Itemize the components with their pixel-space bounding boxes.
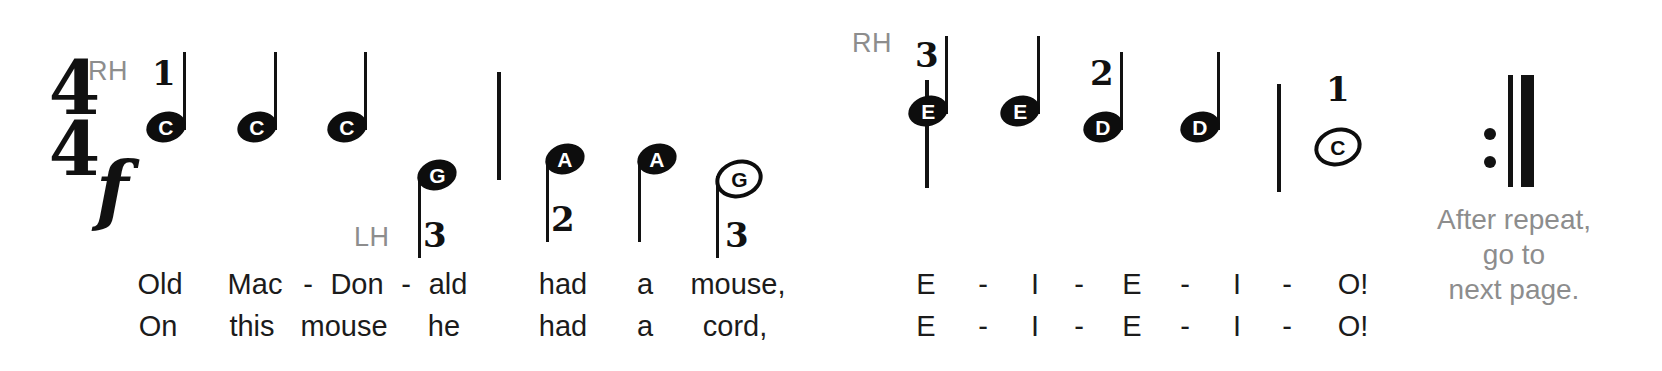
after-repeat-note-line: go to	[1394, 237, 1634, 272]
dynamic-forte: f	[96, 152, 129, 228]
finger-number-n5: 2	[551, 202, 575, 236]
notehead-letter: C	[158, 117, 173, 138]
barline-3	[1277, 84, 1281, 192]
finger-number-n4: 3	[423, 218, 447, 252]
repeat-dot-bottom	[1484, 156, 1496, 168]
lyric-1-word: ald	[388, 268, 508, 301]
hand-label-rh-2: RH	[852, 28, 892, 59]
notehead-letter: C	[249, 117, 264, 138]
lyric-2-word: he	[384, 310, 504, 343]
lyric-2-word: O!	[1293, 310, 1413, 343]
lyric-2-word: cord,	[675, 310, 795, 343]
finger-number-n12: 1	[1326, 72, 1350, 106]
after-repeat-note: After repeat,go tonext page.	[1394, 202, 1634, 307]
note-stem-n6	[638, 160, 641, 242]
notehead-g-n7: G	[711, 154, 768, 204]
after-repeat-note-line: next page.	[1394, 272, 1634, 307]
hand-label-lh-1: LH	[354, 222, 390, 253]
note-stem-n5	[546, 160, 549, 242]
notehead-letter: A	[649, 149, 664, 170]
repeat-barline-thin	[1508, 75, 1513, 187]
notehead-letter: G	[731, 169, 747, 190]
notehead-c-n12: C	[1310, 122, 1367, 172]
finger-number-n7: 3	[725, 218, 749, 252]
notehead-letter: E	[1013, 101, 1027, 122]
notehead-letter: G	[429, 165, 445, 186]
notehead-letter: A	[557, 149, 572, 170]
barline-1	[497, 72, 501, 180]
lyric-1-word: mouse,	[678, 268, 798, 301]
repeat-barline-thick	[1521, 75, 1534, 187]
sheet-music-system: 4 4 f RHLHRHC1CCG3A2AG3E3ED2DC1OldMac-Do…	[0, 0, 1662, 371]
notehead-letter: E	[921, 101, 935, 122]
finger-number-n8: 3	[915, 38, 939, 72]
notehead-letter: C	[339, 117, 354, 138]
hand-label-rh-0: RH	[88, 56, 128, 87]
notehead-letter: C	[1330, 137, 1345, 158]
notehead-letter: D	[1095, 117, 1110, 138]
finger-number-n1: 1	[152, 56, 176, 90]
repeat-dot-top	[1484, 128, 1496, 140]
note-stem-n4	[418, 176, 421, 258]
after-repeat-note-line: After repeat,	[1394, 202, 1634, 237]
notehead-letter: D	[1192, 117, 1207, 138]
finger-number-n10: 2	[1090, 56, 1114, 90]
